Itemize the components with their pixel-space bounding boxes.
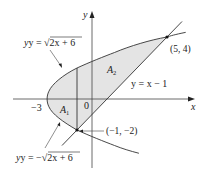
y-axis-arrow-icon [90,11,95,18]
upper-label-pointer [50,50,61,66]
y-axis-label: y [82,9,88,20]
label-point-minus1-minus2: (−1, −2) [106,126,137,137]
x-axis-label: x [190,101,196,112]
label-line: y = x − 1 [131,78,167,89]
tick-label-minus-3: −3 [31,102,42,113]
area-between-curves-diagram: y x 0 −3 A1 A2 yy = √2x + 6 yy = −√2x + … [0,0,205,177]
upper-pointer-arrow-icon [59,63,62,68]
label-point-5-4: (5, 4) [170,44,191,55]
label-lower-parabola: yy = −√2x + 6 [15,152,73,163]
point-minus1-minus2 [75,128,78,131]
label-upper-parabola: yy = √2x + 6 [23,37,75,48]
point-5-4 [165,35,168,38]
lower-label-pointer [45,124,59,148]
origin-label: 0 [84,100,89,111]
